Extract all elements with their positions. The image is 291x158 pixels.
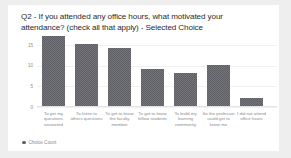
bar-slot[interactable] xyxy=(103,35,136,106)
x-tick-label: To build my learning community xyxy=(169,111,202,127)
bar-slot[interactable] xyxy=(169,35,202,106)
x-tick-label: To listen to others questions xyxy=(70,111,103,122)
plot-area: 051015 xyxy=(16,35,279,113)
axis-baseline xyxy=(37,106,277,107)
x-tick-label: To get my questions answered xyxy=(37,111,70,127)
x-tick-label: So the professor could get to know me xyxy=(202,111,235,127)
grid-line xyxy=(37,107,277,108)
legend: Choice Count xyxy=(22,140,56,145)
bar[interactable] xyxy=(42,36,65,106)
bar[interactable] xyxy=(108,48,131,106)
legend-dot xyxy=(22,141,26,145)
x-tick-label: I did not attend office hours xyxy=(235,111,268,122)
report-card: Q2 - If you attended any office hours, w… xyxy=(8,5,279,151)
bar-slot[interactable] xyxy=(136,35,169,106)
y-tick-label: 0 xyxy=(16,105,33,110)
x-tick-label: To get to know fellow students xyxy=(136,111,169,122)
y-tick-label: 15 xyxy=(16,43,33,48)
bar[interactable] xyxy=(240,98,263,106)
x-axis-labels: To get my questions answeredTo listen to… xyxy=(37,111,269,137)
bar[interactable] xyxy=(75,44,98,106)
bar-slot[interactable] xyxy=(202,35,235,106)
bar-slot[interactable] xyxy=(235,35,268,106)
bar[interactable] xyxy=(174,73,197,106)
bar[interactable] xyxy=(207,65,230,106)
y-tick-label: 10 xyxy=(16,63,33,68)
y-tick-label: 5 xyxy=(16,84,33,89)
bar[interactable] xyxy=(141,69,164,106)
x-tick-label: To get to know the faculty member xyxy=(103,111,136,127)
bar-slot[interactable] xyxy=(37,35,70,106)
bar-slot[interactable] xyxy=(70,35,103,106)
legend-label: Choice Count xyxy=(29,140,57,145)
chart-title: Q2 - If you attended any office hours, w… xyxy=(21,11,266,34)
bars-layer xyxy=(37,35,277,106)
